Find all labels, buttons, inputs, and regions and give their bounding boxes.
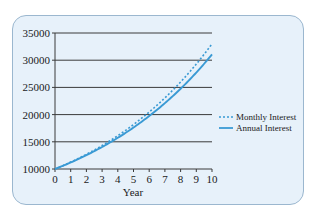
x-tick-label: 10 <box>207 173 219 185</box>
x-tick-label: 3 <box>99 173 105 185</box>
y-tick-label: 15000 <box>23 136 51 148</box>
gridlines <box>52 33 212 169</box>
y-tick-label: 20000 <box>23 109 51 121</box>
y-tick-label: 35000 <box>23 27 51 39</box>
x-tick-label: 1 <box>68 173 74 185</box>
legend-label-annual: Annual Interest <box>236 123 292 133</box>
x-tick-label: 8 <box>178 173 184 185</box>
axes <box>55 33 212 172</box>
chart: 100001500020000250003000035000 012345678… <box>0 0 312 215</box>
x-tick-label: 2 <box>84 173 90 185</box>
monthly-interest-curve <box>55 44 212 169</box>
legend-label-monthly: Monthly Interest <box>236 112 297 122</box>
y-tick-label: 25000 <box>23 81 51 93</box>
x-tick-label: 5 <box>131 173 137 185</box>
x-tick-label: 7 <box>162 173 168 185</box>
legend: Monthly Interest Annual Interest <box>219 112 297 133</box>
curves <box>55 44 212 169</box>
x-axis-labels: 012345678910 <box>52 173 218 185</box>
y-tick-label: 30000 <box>23 54 51 66</box>
annual-interest-curve <box>55 54 212 169</box>
x-tick-label: 6 <box>146 173 152 185</box>
x-tick-label: 9 <box>194 173 200 185</box>
x-tick-label: 0 <box>52 173 58 185</box>
y-axis-labels: 100001500020000250003000035000 <box>23 27 51 175</box>
x-tick-label: 4 <box>115 173 121 185</box>
x-axis-title: Year <box>123 186 144 198</box>
y-tick-label: 10000 <box>23 163 51 175</box>
